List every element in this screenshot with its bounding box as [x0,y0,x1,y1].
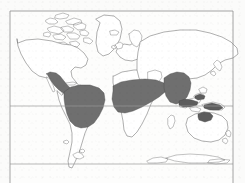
map-svg [0,0,245,183]
world-map [0,0,245,183]
figure-panel [0,0,245,183]
